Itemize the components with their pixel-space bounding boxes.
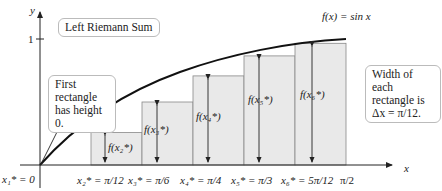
svg-text:x₃* = π/6: x₃* = π/6 — [127, 174, 170, 186]
first-rectangle-note: First rectangle has height 0. — [48, 75, 116, 133]
svg-text:x₄* = π/4: x₄* = π/4 — [179, 174, 222, 186]
svg-text:f(x₄*): f(x₄*) — [196, 110, 221, 123]
svg-text:f(x₅*): f(x₅*) — [248, 93, 273, 106]
svg-text:x₁* = 0: x₁* = 0 — [1, 173, 35, 185]
svg-text:x₅* = π/3: x₅* = π/3 — [230, 174, 273, 186]
svg-text:f(x₂*): f(x₂*) — [108, 141, 133, 154]
svg-text:f(x) = sin x: f(x) = sin x — [322, 10, 371, 23]
width-note-line3: Δx = π/12. — [372, 107, 434, 120]
width-note-line2: rectangle is — [372, 94, 434, 107]
width-note-line1: Width of each — [372, 68, 434, 94]
svg-text:y: y — [29, 4, 35, 16]
svg-text:f(x₆*): f(x₆*) — [300, 88, 325, 101]
svg-text:x₆* = 5π/12: x₆* = 5π/12 — [280, 174, 334, 186]
title-box: Left Riemann Sum — [58, 18, 160, 37]
svg-text:π/2: π/2 — [340, 174, 354, 186]
svg-text:f(x₃*): f(x₃*) — [144, 123, 169, 136]
svg-text:x₂* = π/12: x₂* = π/12 — [76, 174, 124, 186]
width-note: Width of each rectangle is Δx = π/12. — [365, 65, 441, 123]
svg-text:x: x — [403, 162, 409, 174]
svg-text:1: 1 — [28, 33, 34, 45]
